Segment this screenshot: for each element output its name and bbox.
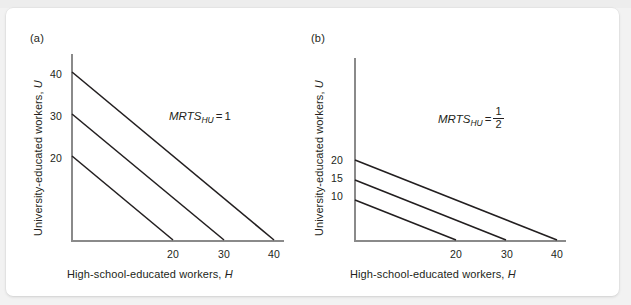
panel-b-mrts-subscript: HU [470, 118, 482, 128]
panel-a-mrts-annotation: MRTSHU=1 [169, 110, 231, 125]
panel-a: (a) University-educated workers, U 40 30… [6, 8, 306, 296]
panel-a-x-tick-20: 20 [160, 248, 186, 260]
panel-a-mrts-equals: = [214, 110, 225, 122]
panel-b-mrts-name: MRTS [438, 113, 470, 125]
panel-b: (b) University-educated workers, U 20 15… [299, 8, 619, 296]
panel-b-mrts-denominator: 2 [493, 118, 503, 131]
panel-b-mrts-numerator: 1 [493, 106, 503, 118]
panel-a-x-tick-30: 30 [211, 248, 237, 260]
panel-b-isoquant-low [355, 200, 456, 240]
panel-b-x-axis-title-var: H [508, 268, 516, 280]
panel-a-isoquant-low [72, 156, 173, 240]
panel-a-isoquant-mid [72, 114, 224, 240]
panel-a-x-axis-title: High-school-educated workers, H [67, 268, 233, 280]
panel-a-mrts-value: 1 [224, 110, 230, 122]
panel-b-x-tick-20: 20 [443, 248, 469, 260]
panel-b-x-axis-title: High-school-educated workers, H [350, 268, 516, 280]
panel-b-mrts-fraction: 12 [493, 106, 503, 130]
panel-a-x-tick-40: 40 [261, 248, 287, 260]
panel-b-isoquant-high [355, 160, 557, 240]
panel-a-isoquant-high [72, 72, 274, 240]
panel-a-x-axis-title-var: H [225, 268, 233, 280]
panel-a-mrts-subscript: HU [201, 115, 213, 125]
panel-b-mrts-equals: = [483, 113, 494, 125]
panel-b-x-axis-title-text: High-school-educated workers, [350, 268, 508, 280]
top-band [0, 0, 631, 8]
panel-b-x-tick-30: 30 [494, 248, 520, 260]
panel-b-x-tick-40: 40 [544, 248, 570, 260]
panel-b-mrts-annotation: MRTSHU=12 [438, 106, 504, 130]
figure-card: (a) University-educated workers, U 40 30… [6, 8, 619, 296]
panel-a-mrts-name: MRTS [169, 110, 201, 122]
panel-a-x-axis-title-text: High-school-educated workers, [67, 268, 225, 280]
